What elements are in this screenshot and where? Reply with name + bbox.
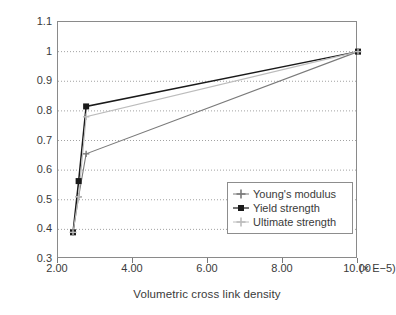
legend: Young's modulus Yield strength Ultimate … [227, 182, 353, 234]
y-axis-tick-label: 0.8 [12, 104, 52, 116]
y-axis-tick-label: 0.9 [12, 74, 52, 86]
x-axis-tick-mark [357, 258, 358, 263]
x-axis-title: Volumetric cross link density [57, 288, 357, 300]
data-point-marker [83, 103, 89, 109]
y-axis-tick-label: 0.7 [12, 134, 52, 146]
x-axis-exponent-note: (× E−5) [359, 262, 396, 274]
y-axis-tick-label: 0.4 [12, 222, 52, 234]
y-axis-tick-label: 1 [12, 45, 52, 57]
x-axis-tick-label: 8.00 [271, 262, 292, 274]
cross-marker-icon [232, 188, 250, 200]
legend-label: Ultimate strength [253, 216, 336, 228]
y-axis-tick-label: 1.1 [12, 15, 52, 27]
x-axis-tick-mark [132, 258, 133, 263]
x-axis-tick-mark [282, 258, 283, 263]
legend-item-ultimate-strength[interactable]: Ultimate strength [232, 215, 347, 229]
y-axis-tick-label: 0.6 [12, 163, 52, 175]
x-axis-tick-mark [207, 258, 208, 263]
legend-item-youngs-modulus[interactable]: Young's modulus [232, 187, 347, 201]
y-axis-tick-label: 0.5 [12, 193, 52, 205]
legend-item-yield-strength[interactable]: Yield strength [232, 201, 347, 215]
x-axis-tick-label: 2.00 [46, 262, 67, 274]
legend-label: Yield strength [253, 202, 320, 214]
data-point-marker [76, 178, 82, 184]
legend-label: Young's modulus [253, 188, 336, 200]
x-axis-tick-mark [57, 258, 58, 263]
filled-square-marker-icon [232, 202, 250, 214]
x-axis-tick-label: 4.00 [121, 262, 142, 274]
data-point-marker [83, 151, 89, 157]
cross-marker-icon [232, 216, 250, 228]
data-point-marker [83, 114, 89, 120]
x-axis-tick-label: 6.00 [196, 262, 217, 274]
